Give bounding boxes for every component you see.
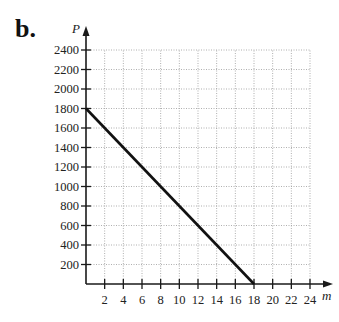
- x-tick-label: 2: [102, 293, 108, 307]
- line-chart: 2004006008001000120014001600180020002200…: [0, 0, 339, 322]
- y-tick-label: 2400: [54, 43, 79, 57]
- y-tick-label: 1400: [54, 141, 79, 155]
- x-tick-label: 20: [266, 293, 279, 307]
- x-axis-label: m: [322, 288, 331, 303]
- series-line: [86, 109, 254, 285]
- x-tick-label: 16: [229, 293, 242, 307]
- grid-lines: [86, 50, 310, 284]
- y-tick-label: 600: [60, 219, 79, 233]
- x-tick-label: 14: [210, 293, 223, 307]
- x-tick-labels: 24681012141618202224: [102, 293, 317, 307]
- x-tick-label: 8: [158, 293, 164, 307]
- y-tick-label: 400: [60, 238, 79, 252]
- y-tick-label: 2000: [54, 82, 79, 96]
- x-tick-label: 6: [139, 293, 145, 307]
- x-axis-arrow-icon: [323, 281, 333, 288]
- x-tick-label: 4: [120, 293, 127, 307]
- y-tick-label: 2200: [54, 63, 79, 77]
- y-axis-label: P: [71, 21, 80, 36]
- x-tick-label: 10: [173, 293, 186, 307]
- y-tick-label: 800: [60, 199, 79, 213]
- x-tick-label: 22: [285, 293, 298, 307]
- y-tick-label: 1600: [54, 121, 79, 135]
- x-tick-label: 18: [248, 293, 261, 307]
- y-tick-label: 1200: [54, 160, 79, 174]
- y-tick-label: 200: [60, 258, 79, 272]
- y-tick-labels: 2004006008001000120014001600180020002200…: [54, 43, 79, 271]
- y-axis-arrow-icon: [83, 26, 90, 36]
- y-tick-label: 1800: [54, 102, 79, 116]
- y-tick-label: 1000: [54, 180, 79, 194]
- x-tick-label: 24: [304, 293, 317, 307]
- axes: [83, 26, 334, 288]
- data-series: [86, 109, 254, 285]
- tick-marks: [81, 50, 310, 289]
- x-tick-label: 12: [192, 293, 205, 307]
